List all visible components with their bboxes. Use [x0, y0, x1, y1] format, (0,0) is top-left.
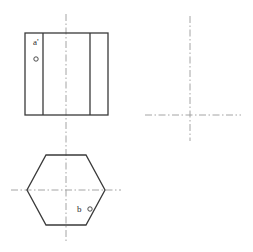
technical-drawing-canvas: a' b [0, 0, 253, 252]
point-label-a-prime: a' [33, 37, 39, 47]
point-label-b: b [77, 204, 82, 214]
